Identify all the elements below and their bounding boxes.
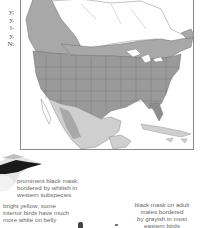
margin-line: y, (0, 32, 14, 40)
caption-line: by grayish in most (122, 215, 202, 222)
caption-line: prominent black mask; (17, 177, 127, 184)
cropped-margin-text: y; y, l- y, N: (0, 8, 14, 48)
caption-yellow-belly: bright yellow; some interior birds have … (3, 202, 113, 223)
margin-line: N: (0, 40, 14, 48)
bird-illustration-fragment (115, 224, 118, 226)
margin-line: l- (0, 24, 14, 32)
caption-adult-male-mask: black mask on adult males bordered by gr… (122, 201, 202, 228)
caption-line: eastern birds (122, 222, 202, 228)
caption-line: more white on belly (3, 216, 113, 223)
margin-line: y; (0, 8, 14, 16)
caption-line: interior birds have much (3, 209, 113, 216)
caption-line: bordered by whitish in (17, 184, 127, 191)
caption-line: bright yellow; some (3, 202, 113, 209)
north-america-map-graphic (21, 0, 194, 150)
bird-illustration-fragment (78, 222, 83, 228)
caption-line: western subspecies (17, 191, 127, 198)
caption-black-mask: prominent black mask; bordered by whitis… (17, 177, 127, 198)
range-map (20, 0, 194, 150)
caption-line: males bordered (122, 208, 202, 215)
margin-line: y, (0, 16, 14, 24)
caption-line: black mask on adult (122, 201, 202, 208)
